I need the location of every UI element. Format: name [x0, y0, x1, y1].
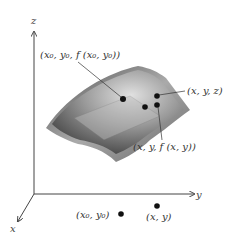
point-xyz	[154, 93, 160, 99]
label-domain-x0-y0: (x₀, y₀)	[76, 209, 110, 220]
point-near-1	[142, 104, 148, 110]
domain-point-xy	[154, 203, 160, 209]
point-xy-f	[154, 102, 160, 108]
label-x0-y0-f: (x₀, y₀, f (x₀, y₀))	[40, 49, 120, 60]
domain-points: (x₀, y₀) (x, y)	[76, 203, 172, 222]
surface-diagram: z y x (x₀, y₀, f (x₀, y₀)) (x, y, z) (x,…	[0, 0, 238, 240]
domain-point-x0-y0	[118, 211, 124, 217]
y-axis-label: y	[195, 189, 202, 200]
label-xyz: (x, y, z)	[187, 85, 223, 96]
x-axis	[18, 194, 34, 221]
z-axis-label: z	[30, 15, 37, 26]
x-axis-label: x	[10, 223, 16, 234]
label-domain-xy: (x, y)	[146, 211, 172, 222]
label-xy-f: (x, y, f (x, y))	[133, 141, 196, 152]
